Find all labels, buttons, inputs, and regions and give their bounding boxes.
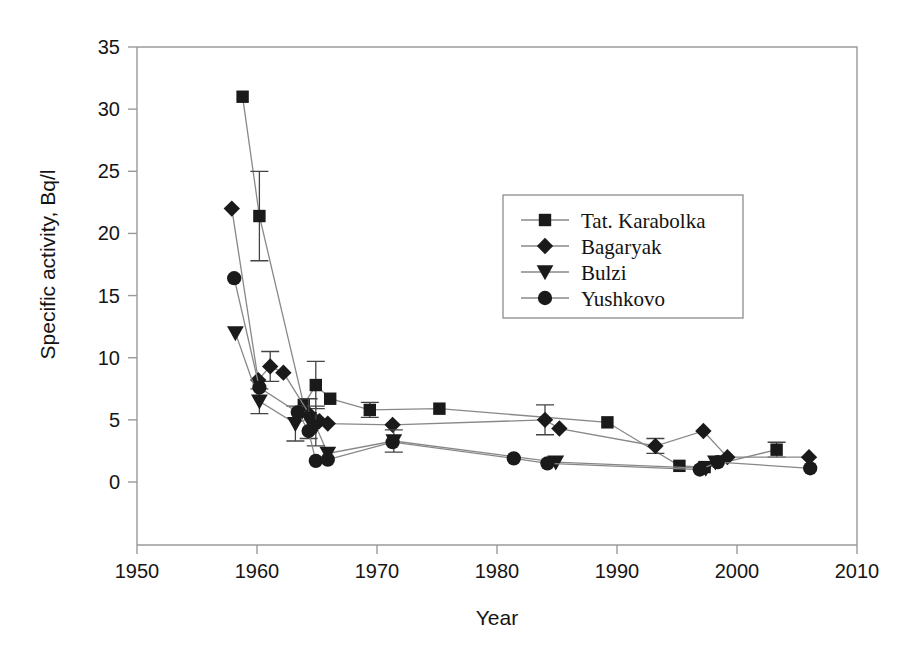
data-point-0-8 <box>673 460 685 472</box>
y-tick-label-20: 20 <box>98 222 120 244</box>
y-tick-label-10: 10 <box>98 347 120 369</box>
x-tick-label-1950: 1950 <box>115 560 160 582</box>
data-point-1-10 <box>647 438 663 454</box>
data-point-0-6 <box>433 402 445 414</box>
legend-label-1: Bagaryak <box>581 235 662 259</box>
y-tick-label-0: 0 <box>109 471 120 493</box>
legend-label-2: Bulzi <box>581 261 627 285</box>
data-point-3-11 <box>803 461 817 475</box>
data-point-3-3 <box>301 424 315 438</box>
x-tick-label-1980: 1980 <box>475 560 520 582</box>
x-tick-label-2010: 2010 <box>835 560 880 582</box>
data-point-3-0 <box>227 271 241 285</box>
data-point-3-7 <box>507 451 521 465</box>
x-tick-label-1990: 1990 <box>595 560 640 582</box>
legend-marker-circle <box>538 291 552 305</box>
data-point-0-10 <box>770 443 782 455</box>
y-tick-label-30: 30 <box>98 98 120 120</box>
data-point-3-6 <box>385 435 399 449</box>
x-tick-label-1960: 1960 <box>235 560 280 582</box>
data-point-1-0 <box>224 200 240 216</box>
data-point-0-3 <box>310 379 322 391</box>
data-point-3-1 <box>252 380 266 394</box>
y-axis-title: Specific activity, Bq/l <box>36 170 59 360</box>
y-tick-label-5: 5 <box>109 409 120 431</box>
chart-figure: 0510152025303519501960197019801990200020… <box>0 0 918 657</box>
data-point-2-1 <box>251 395 268 410</box>
legend-label-3: Yushkovo <box>581 287 665 311</box>
data-point-3-2 <box>291 405 305 419</box>
data-point-0-0 <box>236 91 248 103</box>
data-point-3-8 <box>540 456 554 470</box>
data-point-3-5 <box>321 452 335 466</box>
data-point-3-9 <box>693 462 707 476</box>
data-point-1-8 <box>537 412 553 428</box>
data-point-1-7 <box>384 417 400 433</box>
y-tick-label-25: 25 <box>98 160 120 182</box>
data-point-2-0 <box>227 326 244 341</box>
data-point-0-4 <box>324 393 336 405</box>
data-point-3-10 <box>711 455 725 469</box>
data-point-0-7 <box>601 416 613 428</box>
data-point-0-1 <box>253 210 265 222</box>
y-tick-label-15: 15 <box>98 285 120 307</box>
data-point-0-5 <box>364 404 376 416</box>
legend-label-0: Tat. Karabolka <box>581 209 706 233</box>
legend-marker-square <box>539 214 551 226</box>
y-tick-label-35: 35 <box>98 36 120 58</box>
scatter-chart: 0510152025303519501960197019801990200020… <box>0 0 918 657</box>
x-tick-label-1970: 1970 <box>355 560 400 582</box>
x-tick-label-2000: 2000 <box>715 560 760 582</box>
x-axis-title: Year <box>476 606 518 629</box>
